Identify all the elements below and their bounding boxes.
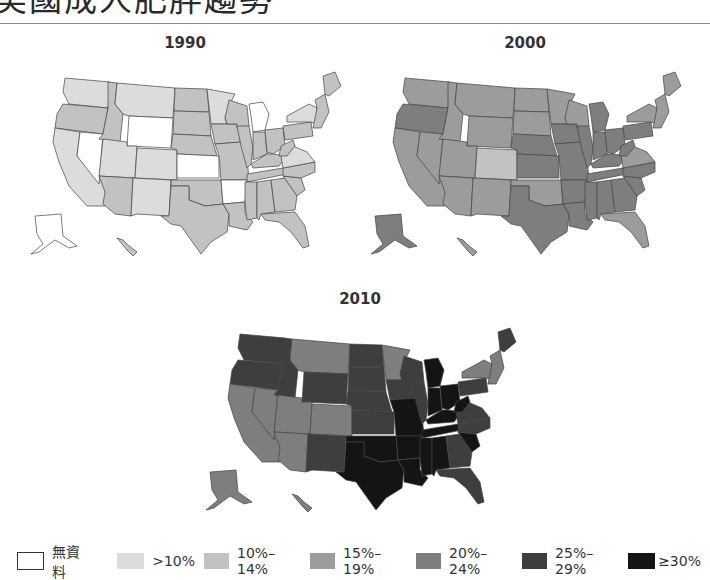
state-co bbox=[310, 404, 352, 436]
state-co bbox=[475, 148, 517, 180]
state-wa bbox=[403, 78, 450, 108]
state-ne bbox=[346, 390, 392, 412]
state-mi bbox=[424, 358, 444, 388]
state-ny bbox=[462, 360, 492, 380]
us-map bbox=[365, 56, 685, 266]
title-divider bbox=[0, 23, 710, 24]
state-ms bbox=[420, 438, 432, 476]
state-pa bbox=[623, 122, 653, 140]
state-nm bbox=[306, 434, 346, 472]
state-pa bbox=[458, 378, 488, 396]
legend-swatch bbox=[522, 553, 547, 569]
state-nm bbox=[471, 178, 511, 216]
map-title: 2000 bbox=[365, 34, 685, 52]
state-sd bbox=[348, 367, 386, 392]
state-az bbox=[439, 176, 473, 216]
state-me bbox=[663, 72, 681, 96]
state-co bbox=[135, 148, 177, 180]
state-ny bbox=[287, 104, 317, 124]
state-wa bbox=[238, 334, 285, 364]
legend-label: 10%–14% bbox=[237, 545, 301, 577]
state-ks bbox=[352, 410, 394, 434]
state-fl bbox=[436, 468, 484, 504]
legend-item-25-29: 25%–29% bbox=[522, 545, 619, 577]
state-ms bbox=[245, 182, 257, 220]
state-pa bbox=[283, 122, 313, 140]
state-ar bbox=[561, 180, 587, 204]
legend-swatch bbox=[628, 553, 655, 569]
legend-item-10-14: 10%–14% bbox=[204, 545, 301, 577]
state-az bbox=[99, 176, 133, 216]
page-title: 美國成人肥胖趨勢 bbox=[0, 0, 274, 18]
state-me bbox=[323, 72, 341, 96]
us-map bbox=[25, 56, 345, 266]
state-fl bbox=[261, 212, 309, 248]
state-ne bbox=[511, 134, 557, 156]
state-ia bbox=[386, 380, 416, 400]
state-ia bbox=[211, 124, 241, 144]
state-wi bbox=[565, 100, 589, 128]
state-ks bbox=[517, 154, 559, 178]
state-wi bbox=[400, 356, 424, 384]
us-map bbox=[200, 312, 520, 522]
legend-label: 25%–29% bbox=[555, 545, 619, 577]
map-title: 2010 bbox=[200, 290, 520, 308]
legend-swatch bbox=[204, 553, 229, 569]
legend: 無資料 >10% 10%–14% 15%–19% 20%–24% 25%–29%… bbox=[17, 552, 710, 570]
legend-label: 無資料 bbox=[52, 541, 90, 580]
state-mi bbox=[589, 102, 609, 132]
legend-label: 15%–19% bbox=[343, 545, 407, 577]
map-1990: 1990 bbox=[25, 34, 345, 259]
state-hi bbox=[292, 494, 312, 512]
state-mt bbox=[115, 83, 175, 118]
page-title-clipped: 美國成人肥胖趨勢 bbox=[0, 0, 710, 18]
state-wy bbox=[127, 116, 173, 148]
legend-item-lt10: >10% bbox=[117, 553, 195, 569]
state-mt bbox=[290, 339, 350, 374]
state-wi bbox=[225, 100, 249, 128]
state-wy bbox=[467, 116, 513, 148]
legend-item-ge30: ≥30% bbox=[628, 553, 701, 569]
legend-swatch bbox=[416, 553, 441, 569]
legend-item-none: 無資料 bbox=[17, 541, 108, 580]
legend-item-20-24: 20%–24% bbox=[416, 545, 513, 577]
state-fl bbox=[601, 212, 649, 248]
state-sd bbox=[173, 111, 211, 136]
legend-swatch bbox=[17, 552, 44, 570]
state-ar bbox=[221, 180, 247, 204]
state-ak bbox=[206, 470, 252, 510]
state-ak bbox=[371, 214, 417, 254]
state-mt bbox=[455, 83, 515, 118]
legend-swatch bbox=[117, 553, 144, 569]
legend-label: ≥30% bbox=[658, 553, 701, 569]
map-2000: 2000 bbox=[365, 34, 685, 259]
state-ne bbox=[171, 134, 217, 156]
state-nm bbox=[131, 178, 171, 216]
legend-swatch bbox=[310, 553, 335, 569]
state-hi bbox=[457, 238, 477, 256]
state-hi bbox=[117, 238, 137, 256]
state-wa bbox=[63, 78, 110, 108]
state-ks bbox=[177, 154, 219, 178]
state-ia bbox=[551, 124, 581, 144]
state-sd bbox=[513, 111, 551, 136]
state-nd bbox=[349, 344, 384, 368]
state-ms bbox=[585, 182, 597, 220]
state-nd bbox=[174, 88, 209, 112]
state-ak bbox=[31, 214, 77, 254]
legend-label: >10% bbox=[152, 553, 195, 569]
legend-item-15-19: 15%–19% bbox=[310, 545, 407, 577]
legend-label: 20%–24% bbox=[449, 545, 513, 577]
state-nd bbox=[514, 88, 549, 112]
state-wy bbox=[302, 372, 348, 404]
state-ar bbox=[396, 436, 422, 460]
state-me bbox=[498, 328, 516, 352]
map-title: 1990 bbox=[25, 34, 345, 52]
state-ny bbox=[627, 104, 657, 124]
state-az bbox=[274, 432, 308, 472]
map-2010: 2010 bbox=[200, 290, 520, 515]
state-mi bbox=[249, 102, 269, 132]
